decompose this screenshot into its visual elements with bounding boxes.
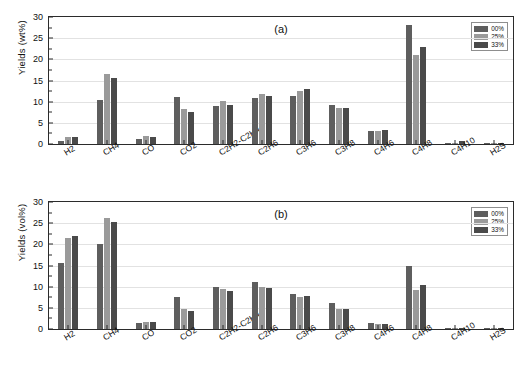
bar-set: [320, 202, 359, 329]
bar: [136, 323, 142, 329]
bar-set: [88, 202, 127, 329]
bar-group: H2: [49, 202, 88, 329]
bar-groups: H2CH4COCO2C2H2-C2H4C2H6C3H6C3H8C4H6C4H8C…: [49, 202, 513, 329]
x-tick-mark: [261, 140, 262, 144]
bar: [329, 105, 335, 144]
bar: [220, 289, 226, 329]
y-tick-label: 20: [33, 54, 43, 64]
x-tick-mark: [107, 140, 108, 144]
y-tick-label: 25: [33, 218, 43, 228]
bar-group: C3H8: [320, 202, 359, 329]
bar: [368, 323, 374, 329]
bar: [413, 290, 419, 329]
bar: [111, 222, 117, 329]
bar: [104, 74, 110, 144]
bar-set: [204, 17, 243, 144]
y-tick-label: 25: [33, 33, 43, 43]
bar-set: [281, 17, 320, 144]
bar-group: C2H6: [242, 17, 281, 144]
x-tick-mark: [145, 140, 146, 144]
bar: [259, 287, 265, 329]
bar: [97, 100, 103, 144]
bar-group: CO2: [165, 17, 204, 144]
x-tick-mark: [377, 325, 378, 329]
x-tick-mark: [145, 325, 146, 329]
bar: [420, 285, 426, 329]
bar-group: C2H6: [242, 202, 281, 329]
figure-bar-charts: Yields (wt%) (a) 00%25%33% 051015202530H…: [0, 0, 526, 372]
bar-set: [49, 202, 88, 329]
bar: [445, 328, 451, 329]
bar-group: H2S: [474, 17, 513, 144]
bar-group: CO: [126, 202, 165, 329]
bar-set: [436, 202, 475, 329]
x-tick-mark: [107, 325, 108, 329]
bar-group: C2H2-C2H4: [204, 202, 243, 329]
bar: [181, 109, 187, 144]
bar-group: C4H6: [358, 202, 397, 329]
bar-group: H2S: [474, 202, 513, 329]
bar-set: [88, 17, 127, 144]
bar-set: [242, 202, 281, 329]
bar: [174, 97, 180, 144]
bar: [445, 143, 451, 144]
bar-set: [242, 17, 281, 144]
x-tick-label: H2: [62, 328, 77, 342]
bar: [290, 96, 296, 144]
bar: [297, 91, 303, 144]
bar-group: C4H10: [436, 202, 475, 329]
bar: [65, 238, 71, 329]
x-tick-mark: [377, 140, 378, 144]
bar: [136, 139, 142, 144]
bar-group: C3H6: [281, 202, 320, 329]
bar-set: [436, 17, 475, 144]
bar-group: C2H2-C2H4: [204, 17, 243, 144]
x-tick-mark: [493, 140, 494, 144]
bar: [252, 98, 258, 144]
bar: [368, 131, 374, 144]
bar: [266, 288, 272, 329]
bar-group: H2: [49, 17, 88, 144]
bar-group: C3H6: [281, 17, 320, 144]
bar: [72, 236, 78, 329]
y-tick-label: 0: [38, 324, 43, 334]
bar: [259, 94, 265, 144]
y-tick-label: 20: [33, 239, 43, 249]
bar-set: [204, 202, 243, 329]
bar-set: [474, 17, 513, 144]
x-tick-mark: [261, 325, 262, 329]
bar-set: [49, 17, 88, 144]
chart-panel-a: Yields (wt%) (a) 00%25%33% 051015202530H…: [0, 2, 526, 187]
plot-area-b: (b) 00%25%33% 051015202530H2CH4COCO2C2H2…: [48, 201, 514, 330]
bar-set: [474, 202, 513, 329]
bar: [252, 282, 258, 329]
bar: [406, 25, 412, 144]
bar-group: C4H8: [397, 202, 436, 329]
bar: [213, 106, 219, 144]
bar-set: [397, 17, 436, 144]
y-tick-label: 15: [33, 261, 43, 271]
y-tick-label: 5: [38, 118, 43, 128]
x-tick-mark: [493, 325, 494, 329]
bar: [413, 55, 419, 144]
bar-group: C4H6: [358, 17, 397, 144]
bar: [104, 218, 110, 329]
bar-set: [358, 17, 397, 144]
x-tick-label: H2: [62, 143, 77, 157]
bar-group: C3H8: [320, 17, 359, 144]
x-tick-mark: [223, 325, 224, 329]
bar: [290, 294, 296, 329]
bar: [406, 266, 412, 329]
bar-set: [165, 202, 204, 329]
bar: [304, 89, 310, 144]
bar-group: C4H8: [397, 17, 436, 144]
y-tick-label: 10: [33, 282, 43, 292]
bar: [72, 137, 78, 144]
bar-set: [397, 202, 436, 329]
y-axis-label-b: Yields (vol%): [16, 185, 27, 281]
y-tick-label: 0: [38, 139, 43, 149]
bar: [111, 78, 117, 144]
chart-panel-b: Yields (vol%) (b) 00%25%33% 051015202530…: [0, 187, 526, 372]
bar-group: C4H10: [436, 17, 475, 144]
bar: [58, 141, 64, 144]
